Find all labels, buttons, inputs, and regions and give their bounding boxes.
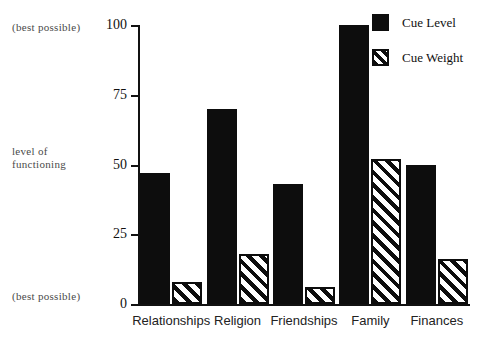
- bar-religion-cue-weight: [239, 254, 269, 304]
- y-tick-mark: [131, 234, 138, 236]
- y-tick-mark: [131, 304, 138, 306]
- x-label-friendships: Friendships: [270, 313, 337, 328]
- bar-relationships-cue-weight: [172, 282, 202, 304]
- bar-family-cue-weight: [371, 159, 401, 304]
- bar-relationships-cue-level: [140, 173, 170, 304]
- y-tick-label: 100: [106, 17, 127, 33]
- x-label-finances: Finances: [410, 313, 463, 328]
- legend-label: Cue Weight: [402, 50, 463, 66]
- legend-swatch-icon: [372, 49, 389, 66]
- bar-family-cue-level: [339, 25, 369, 304]
- legend-item-cue-weight: Cue Weight: [372, 49, 463, 66]
- bottom-axis-annotation: (best possible): [12, 290, 80, 302]
- legend-item-cue-level: Cue Level: [372, 14, 463, 31]
- y-tick-label: 75: [113, 87, 127, 103]
- bar-friendships-cue-weight: [305, 287, 335, 304]
- x-label-relationships: Relationships: [132, 313, 210, 328]
- bar-friendships-cue-level: [273, 184, 303, 304]
- y-tick-mark: [131, 95, 138, 97]
- y-tick-mark: [131, 25, 138, 27]
- legend-label: Cue Level: [402, 15, 456, 31]
- x-label-family: Family: [351, 313, 389, 328]
- top-axis-annotation: (best possible): [12, 21, 80, 33]
- bar-chart-figure: (best possible) level of functioning (be…: [0, 0, 480, 341]
- x-label-religion: Religion: [214, 313, 261, 328]
- bar-finances-cue-level: [406, 165, 436, 305]
- bar-finances-cue-weight: [438, 259, 468, 304]
- legend-swatch-icon: [372, 14, 389, 31]
- bar-religion-cue-level: [207, 109, 237, 304]
- y-tick-label: 50: [113, 157, 127, 173]
- y-axis-title: level of functioning: [12, 145, 66, 171]
- y-tick-label: 0: [120, 296, 127, 312]
- x-axis-line: [138, 304, 470, 306]
- y-tick-mark: [131, 165, 138, 167]
- y-tick-label: 25: [113, 226, 127, 242]
- chart-legend: Cue LevelCue Weight: [372, 14, 463, 84]
- y-axis-title-line-1: level of: [12, 145, 66, 158]
- y-axis-title-line-2: functioning: [12, 158, 66, 171]
